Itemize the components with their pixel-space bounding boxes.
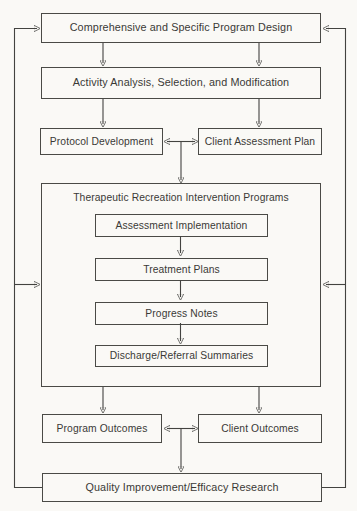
node-client-outcomes: Client Outcomes <box>198 414 322 443</box>
node-protocol-development: Protocol Development <box>40 128 163 155</box>
node-program-outcomes: Program Outcomes <box>42 414 162 443</box>
flowchart-figure: Comprehensive and Specific Program Desig… <box>0 0 357 511</box>
node-program-design: Comprehensive and Specific Program Desig… <box>41 13 321 43</box>
node-activity-analysis: Activity Analysis, Selection, and Modifi… <box>41 67 321 99</box>
feedback-left-to-program-design <box>15 29 43 488</box>
node-client-assessment-plan: Client Assessment Plan <box>198 128 322 155</box>
node-discharge-referral-summaries: Discharge/Referral Summaries <box>95 345 268 367</box>
node-assessment-implementation: Assessment Implementation <box>95 214 268 237</box>
node-treatment-plans: Treatment Plans <box>95 258 268 281</box>
node-quality-improvement: Quality Improvement/Efficacy Research <box>42 473 322 502</box>
intervention-programs-title: Therapeutic Recreation Intervention Prog… <box>42 192 320 203</box>
node-progress-notes: Progress Notes <box>95 302 268 325</box>
node-intervention-programs-container: Therapeutic Recreation Intervention Prog… <box>41 183 321 387</box>
feedback-right-to-program-design <box>322 29 346 488</box>
